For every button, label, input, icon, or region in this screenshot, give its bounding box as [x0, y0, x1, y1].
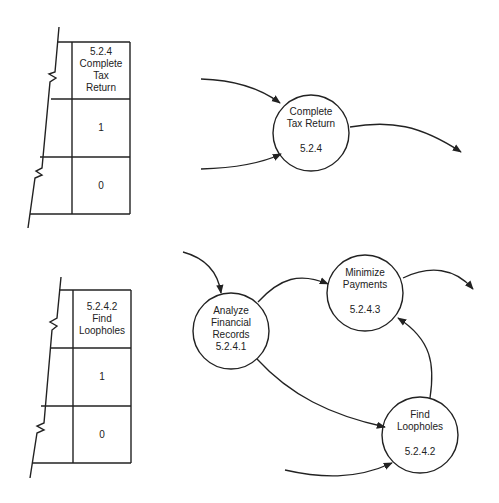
- node-label-line: Tax Return: [273, 118, 349, 130]
- table-header-line: Return: [72, 82, 130, 94]
- node-label-minimize-payments: Minimize Payments 5.2.4.3: [327, 267, 403, 316]
- flow-in-to-analyze: [183, 252, 221, 293]
- flow-analyze-to-minimize: [258, 278, 328, 302]
- table-row-value: 0: [72, 180, 130, 192]
- node-label-line: Minimize: [327, 267, 403, 279]
- node-label-line: Complete: [273, 106, 349, 118]
- table-row-value: 1: [72, 122, 130, 134]
- table-header-line: Tax: [72, 70, 130, 82]
- table-header-cell: 5.2.4 Complete Tax Return: [72, 46, 130, 94]
- table-header-line: Find: [73, 313, 131, 325]
- flow-in-to-find: [285, 463, 392, 476]
- node-id: 5.2.4.2: [382, 446, 458, 458]
- flow-out-from-minimize: [403, 270, 473, 289]
- node-label-line: Records: [193, 329, 269, 341]
- node-id: 5.2.4.3: [327, 304, 403, 316]
- node-label-line: Loopholes: [382, 421, 458, 433]
- node-label-complete-tax-return: Complete Tax Return 5.2.4: [273, 106, 349, 155]
- node-label-find-loopholes: Find Loopholes 5.2.4.2: [382, 409, 458, 458]
- table-header-line: 5.2.4.2: [73, 301, 131, 313]
- node-label-line: Find: [382, 409, 458, 421]
- table-torn-edge: [30, 277, 61, 478]
- table-torn-edge: [28, 27, 59, 228]
- table-header-line: 5.2.4: [72, 46, 130, 58]
- node-id: 5.2.4: [273, 143, 349, 155]
- flow-in-bottom-to-complete: [201, 154, 281, 169]
- flow-find-to-minimize: [398, 318, 432, 398]
- table-row-value: 1: [73, 371, 131, 383]
- table-header-line: Complete: [72, 58, 130, 70]
- flow-out-from-complete: [350, 124, 461, 152]
- table-row-value: 0: [73, 429, 131, 441]
- table-header-cell: 5.2.4.2 Find Loopholes: [73, 301, 131, 337]
- table-header-line: Loopholes: [73, 325, 131, 337]
- node-id: 5.2.4.1: [193, 341, 269, 353]
- flow-analyze-to-find: [257, 359, 385, 427]
- flow-in-top-to-complete: [201, 79, 280, 103]
- node-label-line: Analyze: [193, 305, 269, 317]
- node-label-line: Payments: [327, 279, 403, 291]
- node-label-analyze-financial-records: Analyze Financial Records 5.2.4.1: [193, 305, 269, 353]
- node-label-line: Financial: [193, 317, 269, 329]
